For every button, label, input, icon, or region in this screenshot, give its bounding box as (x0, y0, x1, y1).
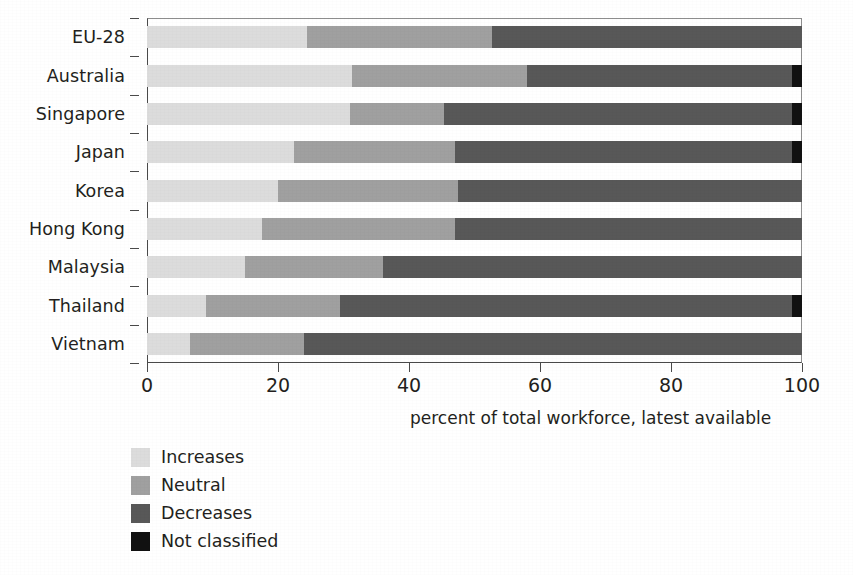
y-axis-tick (130, 171, 139, 172)
y-axis-tick (130, 325, 139, 326)
bar-segment (455, 141, 792, 163)
legend-label: Not classified (161, 531, 278, 551)
y-axis-tick (130, 286, 139, 287)
category-axis-labels: EU-28AustraliaSingaporeJapanKoreaHong Ko… (0, 18, 139, 363)
category-label-singapore: Singapore (36, 103, 125, 125)
x-axis-tick-label: 20 (266, 374, 290, 396)
bar-row (147, 295, 802, 317)
x-axis-tick-label: 60 (528, 374, 552, 396)
x-axis-tick-label: 40 (397, 374, 421, 396)
bar-segment (278, 180, 458, 202)
bar-segment (458, 180, 802, 202)
category-label-thailand: Thailand (49, 295, 125, 317)
legend-item-neutral: Neutral (131, 471, 431, 499)
legend-swatch-icon (131, 504, 150, 523)
bars-layer (147, 18, 802, 363)
bar-segment (147, 180, 278, 202)
bar-segment (190, 333, 305, 355)
category-label-eu-28: EU-28 (72, 26, 125, 48)
bar-row (147, 180, 802, 202)
bar-row (147, 218, 802, 240)
y-axis-tick (130, 18, 139, 19)
x-axis-tick-label: 80 (659, 374, 683, 396)
bar-segment (383, 256, 802, 278)
bar-segment (444, 103, 792, 125)
bar-segment (245, 256, 383, 278)
category-label-hong-kong: Hong Kong (29, 218, 125, 240)
bar-segment (147, 256, 245, 278)
bar-segment (352, 65, 527, 87)
x-axis-tick (802, 363, 803, 372)
bar-segment (792, 65, 802, 87)
bar-segment (792, 295, 802, 317)
bar-segment (147, 65, 352, 87)
bar-segment (262, 218, 455, 240)
bar-segment (455, 218, 802, 240)
bar-segment (147, 103, 350, 125)
bar-row (147, 333, 802, 355)
bar-segment (304, 333, 802, 355)
bar-segment (527, 65, 792, 87)
category-label-australia: Australia (47, 65, 125, 87)
legend-item-decreases: Decreases (131, 499, 431, 527)
y-axis-tick (130, 133, 139, 134)
y-axis-tick (130, 363, 139, 364)
bar-segment (792, 141, 802, 163)
bar-segment (294, 141, 454, 163)
x-axis-tick-label: 0 (141, 374, 153, 396)
bar-row (147, 65, 802, 87)
bar-segment (492, 26, 802, 48)
bar-row (147, 26, 802, 48)
category-label-vietnam: Vietnam (51, 333, 125, 355)
bar-segment (147, 141, 294, 163)
bar-row (147, 141, 802, 163)
legend-label: Increases (161, 447, 244, 467)
bar-segment (147, 26, 307, 48)
legend-item-increases: Increases (131, 443, 431, 471)
category-label-japan: Japan (76, 141, 125, 163)
category-label-korea: Korea (75, 180, 125, 202)
x-axis-tick (540, 363, 541, 372)
y-axis-tick (130, 95, 139, 96)
chart-legend: IncreasesNeutralDecreasesNot classified (131, 443, 431, 555)
bar-segment (340, 295, 792, 317)
x-axis-tick (409, 363, 410, 372)
legend-label: Neutral (161, 475, 226, 495)
x-axis-tick-label: 100 (784, 374, 820, 396)
bar-segment (792, 103, 802, 125)
bar-segment (350, 103, 444, 125)
y-axis-tick (130, 56, 139, 57)
legend-swatch-icon (131, 448, 150, 467)
bar-row (147, 103, 802, 125)
x-axis-tick (278, 363, 279, 372)
legend-swatch-icon (131, 532, 150, 551)
x-axis-tick-labels: 020406080100 (147, 374, 802, 400)
bar-segment (147, 333, 190, 355)
x-axis-tick (671, 363, 672, 372)
bar-segment (307, 26, 492, 48)
bar-segment (206, 295, 340, 317)
legend-label: Decreases (161, 503, 252, 523)
x-axis-title: percent of total workforce, latest avail… (410, 408, 771, 428)
category-label-malaysia: Malaysia (48, 256, 125, 278)
bar-segment (147, 295, 206, 317)
legend-item-not-classified: Not classified (131, 527, 431, 555)
bar-segment (147, 218, 262, 240)
stacked-bar-chart-figure: EU-28AustraliaSingaporeJapanKoreaHong Ko… (0, 0, 853, 575)
y-axis-tick (130, 248, 139, 249)
y-axis-tick (130, 210, 139, 211)
legend-swatch-icon (131, 476, 150, 495)
x-axis-tick (147, 363, 148, 372)
bar-row (147, 256, 802, 278)
